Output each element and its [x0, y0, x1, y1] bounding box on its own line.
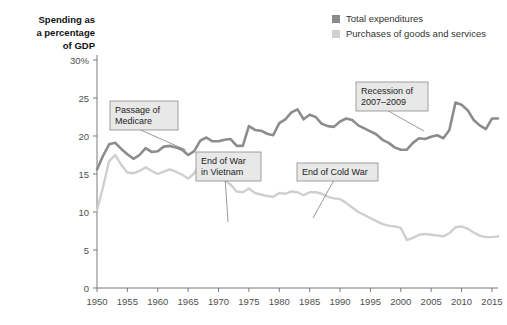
y-tick-label-20: 20 [78, 131, 89, 142]
x-tick-label-1990: 1990 [329, 296, 350, 307]
y-axis-title-line-1: Spending as [39, 14, 95, 25]
legend-label-0: Total expenditures [346, 13, 423, 24]
annotation-text-recession-of-2007-2009-line-0: Recession of [361, 86, 414, 96]
x-tick-label-1955: 1955 [117, 296, 138, 307]
x-tick-label-1975: 1975 [238, 296, 259, 307]
y-axis-title-line-3: of GDP [63, 40, 96, 51]
annotation-text-end-of-war-in-vietnam-line-0: End of War [201, 156, 246, 166]
y-tick-label-15: 15 [78, 169, 89, 180]
x-tick-label-1980: 1980 [269, 296, 290, 307]
x-tick-label-1970: 1970 [208, 296, 229, 307]
y-tick-label-0: 0 [84, 283, 89, 294]
spending-percentage-gdp-line-chart: Spending as a percentage of GDP Total ex… [0, 0, 507, 325]
x-tick-label-1985: 1985 [299, 296, 320, 307]
x-tick-label-2015: 2015 [481, 296, 502, 307]
legend-swatch-0 [332, 15, 340, 23]
chart-container: Spending as a percentage of GDP Total ex… [0, 0, 507, 325]
legend-label-1: Purchases of goods and services [346, 28, 486, 39]
x-tick-label-1950: 1950 [86, 296, 107, 307]
annotation-text-end-of-cold-war-line-0: End of Cold War [302, 167, 368, 177]
y-tick-label-30: 30% [70, 55, 90, 66]
annotation-text-passage-of-medicare-line-0: Passage of [115, 105, 161, 115]
annotation-text-end-of-war-in-vietnam-line-1: in Vietnam [201, 167, 243, 177]
y-tick-label-5: 5 [84, 245, 89, 256]
y-tick-label-25: 25 [78, 93, 89, 104]
x-tick-label-1960: 1960 [147, 296, 168, 307]
annotation-text-recession-of-2007-2009-line-1: 2007–2009 [361, 97, 406, 107]
x-tick-label-1965: 1965 [178, 296, 199, 307]
x-tick-label-2010: 2010 [451, 296, 472, 307]
y-tick-label-10: 10 [78, 207, 89, 218]
x-tick-label-1995: 1995 [360, 296, 381, 307]
x-tick-label-2000: 2000 [390, 296, 411, 307]
x-tick-label-2005: 2005 [421, 296, 442, 307]
legend-swatch-1 [332, 30, 340, 38]
y-axis-title-line-2: a percentage [36, 27, 95, 38]
annotation-text-passage-of-medicare-line-1: Medicare [115, 116, 152, 126]
